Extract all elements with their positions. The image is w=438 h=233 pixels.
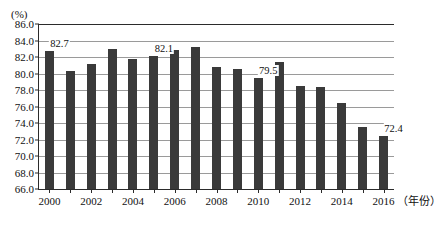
x-axis-tick-mark [112, 189, 113, 193]
x-axis-tick-label: 2008 [206, 195, 228, 207]
x-axis-tick-mark [49, 189, 50, 193]
y-axis-tick-label: 76.0 [15, 101, 34, 112]
gridline [39, 57, 394, 58]
plot-area: 86.084.082.080.078.076.074.072.070.068.0… [38, 24, 394, 190]
bar [275, 62, 284, 189]
bar [212, 67, 221, 189]
y-axis-tick-mark [35, 139, 39, 140]
x-axis-tick-label: 2014 [331, 195, 353, 207]
y-axis-tick-label: 82.0 [15, 52, 34, 63]
bar-value-label: 82.7 [49, 38, 69, 49]
bar [149, 56, 158, 189]
bar [170, 50, 179, 189]
x-axis-tick-mark [217, 189, 218, 193]
bar [254, 78, 263, 189]
y-axis-tick-mark [35, 90, 39, 91]
x-axis-tick-mark [154, 189, 155, 193]
x-axis-tick-mark [237, 189, 238, 193]
y-axis-tick-mark [35, 189, 39, 190]
gridline [39, 41, 394, 42]
x-axis-tick-label: 2004 [122, 195, 144, 207]
y-axis-tick-label: 84.0 [15, 35, 34, 46]
y-axis-tick-label: 74.0 [15, 118, 34, 129]
x-axis-tick-mark [196, 189, 197, 193]
x-axis-tick-label: 2002 [80, 195, 102, 207]
y-axis-tick-mark [35, 57, 39, 58]
x-axis-tick-label: 2016 [373, 195, 395, 207]
x-axis-tick-mark [91, 189, 92, 193]
bar [296, 86, 305, 189]
x-axis-tick-mark [300, 189, 301, 193]
y-axis-tick-mark [35, 123, 39, 124]
y-axis-tick-label: 86.0 [15, 19, 34, 30]
bar-value-label: 82.1 [154, 43, 174, 54]
bar [108, 49, 117, 189]
x-axis-tick-mark [363, 189, 364, 193]
x-axis-tick-mark [384, 189, 385, 193]
x-axis-tick-mark [175, 189, 176, 193]
x-axis-tick-mark [133, 189, 134, 193]
x-axis-tick-mark [321, 189, 322, 193]
x-axis-tick-label: 2000 [38, 195, 60, 207]
y-axis-tick-label: 78.0 [15, 85, 34, 96]
y-axis-tick-mark [35, 73, 39, 74]
y-axis-tick-label: 72.0 [15, 134, 34, 145]
y-axis-tick-mark [35, 172, 39, 173]
x-axis-tick-label: 2006 [164, 195, 186, 207]
x-axis-tick-label: 2012 [289, 195, 311, 207]
y-axis-tick-mark [35, 40, 39, 41]
bar-value-label: 72.4 [383, 123, 403, 134]
bar [45, 51, 54, 189]
gridline [39, 24, 394, 25]
y-axis-tick-mark [35, 106, 39, 107]
x-axis-title: （年份） [397, 195, 438, 207]
y-axis-tick-mark [35, 156, 39, 157]
x-axis-tick-mark [279, 189, 280, 193]
bar [128, 59, 137, 189]
bar [66, 71, 75, 189]
x-axis-tick-mark [70, 189, 71, 193]
bar [316, 87, 325, 189]
bar [358, 127, 367, 189]
y-axis-tick-label: 70.0 [15, 151, 34, 162]
y-axis-tick-mark [35, 24, 39, 25]
y-axis-tick-label: 66.0 [15, 184, 34, 195]
y-axis-tick-label: 80.0 [15, 68, 34, 79]
bar [337, 103, 346, 189]
bar [191, 47, 200, 189]
x-axis-tick-mark [342, 189, 343, 193]
x-axis-tick-label: 2010 [247, 195, 269, 207]
bar-value-label: 79.5 [258, 65, 278, 76]
bar [233, 69, 242, 189]
y-axis-tick-label: 68.0 [15, 167, 34, 178]
x-axis-tick-mark [258, 189, 259, 193]
bar [87, 64, 96, 189]
bar [379, 136, 388, 189]
